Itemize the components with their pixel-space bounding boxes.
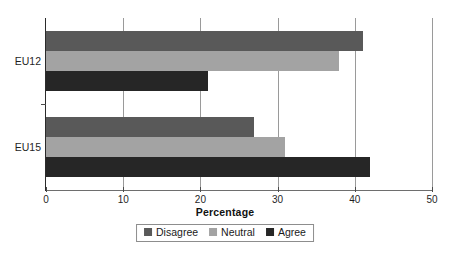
category-label-eu15: EU15 xyxy=(4,141,41,153)
legend-swatch-icon xyxy=(144,228,152,236)
legend-item-disagree: Disagree xyxy=(144,227,198,238)
x-axis-tick xyxy=(123,187,124,192)
y-axis-tick xyxy=(41,104,46,105)
legend-item-neutral: Neutral xyxy=(209,227,255,238)
bar-agree-eu15 xyxy=(46,157,370,177)
gridline xyxy=(432,18,433,190)
x-axis-tick xyxy=(200,187,201,192)
legend-item-agree: Agree xyxy=(266,227,306,238)
x-axis-title: Percentage xyxy=(0,206,450,218)
bar-disagree-eu15 xyxy=(46,117,254,137)
legend-label: Agree xyxy=(278,227,306,238)
category-label-eu12: EU12 xyxy=(4,55,41,67)
x-axis-tick-label: 50 xyxy=(417,194,447,205)
x-axis-tick-label: 0 xyxy=(31,194,61,205)
x-axis-tick xyxy=(46,187,47,192)
legend-label: Neutral xyxy=(221,227,255,238)
x-axis-tick-label: 30 xyxy=(263,194,293,205)
x-axis-tick xyxy=(432,187,433,192)
bar-neutral-eu15 xyxy=(46,137,285,157)
bar-chart: 01020304050 EU12EU15 Percentage Disagree… xyxy=(0,0,450,256)
legend-label: Disagree xyxy=(156,227,198,238)
x-axis-line xyxy=(46,190,432,191)
legend-swatch-icon xyxy=(266,228,274,236)
bar-neutral-eu12 xyxy=(46,51,339,71)
plot-area xyxy=(46,18,432,190)
x-axis-tick-label: 20 xyxy=(185,194,215,205)
x-axis-tick-label: 40 xyxy=(340,194,370,205)
bar-disagree-eu12 xyxy=(46,31,363,51)
x-axis-tick xyxy=(278,187,279,192)
bar-agree-eu12 xyxy=(46,71,208,91)
legend-swatch-icon xyxy=(209,228,217,236)
chart-legend: DisagreeNeutralAgree xyxy=(136,224,314,242)
x-axis-tick-label: 10 xyxy=(108,194,138,205)
x-axis-tick xyxy=(355,187,356,192)
